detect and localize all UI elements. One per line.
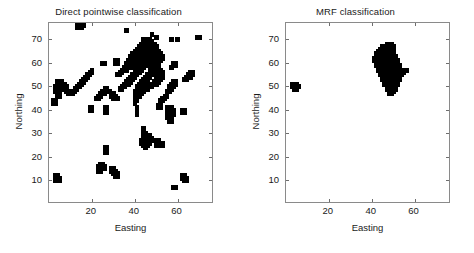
x-tick-labels-right: 204060 — [285, 204, 450, 220]
classified-cell — [103, 166, 108, 171]
y-tick-label: 50 — [268, 80, 279, 91]
y-tick — [446, 157, 449, 158]
x-axis-title-left: Easting — [48, 222, 213, 233]
classified-cell — [169, 37, 174, 42]
x-tick — [415, 23, 416, 26]
x-tick — [329, 23, 330, 26]
classified-cell — [150, 84, 155, 89]
classified-cell — [135, 112, 140, 117]
classified-cell — [175, 37, 180, 42]
y-tick — [49, 86, 52, 87]
y-tick-label: 30 — [31, 127, 42, 138]
y-tick-label: 70 — [31, 33, 42, 44]
y-tick — [446, 133, 449, 134]
y-tick-label: 60 — [268, 56, 279, 67]
y-tick-label: 70 — [268, 33, 279, 44]
classified-cell — [154, 35, 159, 40]
plot-axes-right — [285, 22, 450, 203]
x-tick-label: 40 — [365, 205, 376, 216]
classified-cell — [197, 35, 202, 40]
classified-cell — [173, 63, 178, 68]
classified-cell — [120, 86, 125, 91]
y-tick — [209, 63, 212, 64]
x-tick — [329, 199, 330, 202]
y-tick — [49, 39, 52, 40]
classified-cell — [173, 185, 178, 190]
classified-cell — [53, 101, 58, 106]
y-tick-label: 10 — [31, 174, 42, 185]
x-tick — [178, 199, 179, 202]
classified-cell — [58, 178, 63, 183]
classified-cell — [295, 86, 300, 91]
classified-cell — [184, 77, 189, 82]
y-tick — [446, 39, 449, 40]
x-tick-label: 20 — [323, 205, 334, 216]
classified-cell — [70, 91, 75, 96]
classified-cell — [154, 82, 159, 87]
y-tick — [286, 157, 289, 158]
x-tick-label: 20 — [86, 205, 97, 216]
classified-cell — [118, 72, 123, 77]
plot-area-right — [286, 23, 449, 202]
classified-cell — [182, 110, 187, 115]
figure-container: Direct pointwise classification 10203040… — [0, 0, 474, 253]
y-tick-label: 10 — [268, 174, 279, 185]
y-tick — [286, 110, 289, 111]
classified-cell — [105, 110, 110, 115]
y-tick-label: 40 — [268, 103, 279, 114]
classified-cell — [143, 145, 148, 150]
classified-cell — [126, 82, 131, 87]
y-tick — [49, 157, 52, 158]
classified-cell — [90, 108, 95, 113]
classified-cell — [58, 94, 63, 99]
classified-cell — [105, 150, 110, 155]
y-tick — [209, 39, 212, 40]
y-tick — [446, 63, 449, 64]
y-tick-label: 20 — [31, 150, 42, 161]
y-tick-label: 20 — [268, 150, 279, 161]
x-tick — [372, 199, 373, 202]
x-axis-title-right: Easting — [285, 222, 450, 233]
classified-cell — [103, 91, 108, 96]
x-tick — [178, 23, 179, 26]
x-tick — [92, 199, 93, 202]
y-tick-label: 60 — [31, 56, 42, 67]
x-tick — [135, 23, 136, 26]
y-tick — [209, 86, 212, 87]
y-tick — [286, 86, 289, 87]
x-tick-label: 60 — [408, 205, 419, 216]
plot-axes-left — [48, 22, 213, 203]
y-tick — [446, 180, 449, 181]
y-tick — [286, 133, 289, 134]
classified-cell — [96, 96, 101, 101]
classified-cell — [145, 86, 150, 91]
x-tick-labels-left: 204060 — [48, 204, 213, 220]
panel-title-right: MRF classification — [237, 6, 474, 17]
y-tick — [286, 39, 289, 40]
classified-cell — [188, 75, 193, 80]
y-axis-title-left: Northing — [13, 82, 24, 142]
x-tick-label: 40 — [128, 205, 139, 216]
classified-cell — [160, 143, 165, 148]
y-tick — [209, 157, 212, 158]
classified-cell — [115, 96, 120, 101]
classified-cell — [98, 169, 103, 174]
y-tick — [49, 63, 52, 64]
y-tick — [209, 133, 212, 134]
classified-cell — [79, 25, 84, 30]
y-tick-label: 30 — [268, 127, 279, 138]
y-tick-label: 40 — [31, 103, 42, 114]
y-tick — [446, 86, 449, 87]
classified-cell — [115, 173, 120, 178]
x-tick — [415, 199, 416, 202]
classified-cell — [158, 105, 163, 110]
x-tick-label: 60 — [171, 205, 182, 216]
classified-cell — [103, 61, 108, 66]
classified-cell — [115, 61, 120, 66]
y-tick — [209, 180, 212, 181]
y-tick — [286, 63, 289, 64]
x-tick — [372, 23, 373, 26]
classified-cell — [389, 91, 394, 96]
classified-cell — [124, 28, 129, 33]
y-tick — [49, 133, 52, 134]
